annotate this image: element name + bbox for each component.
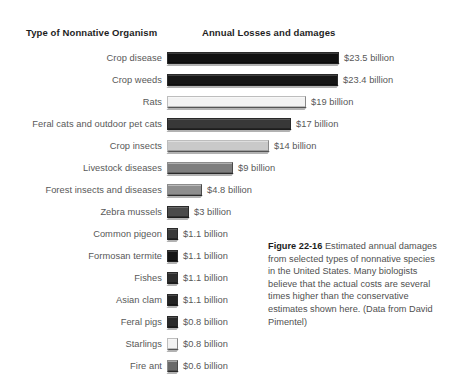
bar-chart-row: Forest insects and diseases$4.8 billion — [0, 182, 451, 204]
category-label: Starlings — [125, 339, 162, 349]
value-label: $0.8 billion — [183, 317, 228, 327]
category-column-header: Type of Nonnative Organism — [26, 27, 157, 38]
bar — [167, 96, 306, 108]
bar-chart-row: Feral cats and outdoor pet cats$17 billi… — [0, 116, 451, 138]
value-label: $14 billion — [274, 141, 316, 151]
bar-chart-row: Crop weeds$23.4 billion — [0, 72, 451, 94]
bar — [167, 52, 339, 64]
bar-chart-row: Fire ant$0.6 billion — [0, 358, 451, 378]
value-label: $19 billion — [311, 97, 353, 107]
bar-chart-row: Starlings$0.8 billion — [0, 336, 451, 358]
bar — [167, 140, 269, 152]
bar-chart-row: Rats$19 billion — [0, 94, 451, 116]
bar — [167, 184, 202, 196]
bar — [167, 162, 233, 174]
bar-chart-row: Livestock diseases$9 billion — [0, 160, 451, 182]
value-label: $9 billion — [238, 163, 275, 173]
bar — [167, 360, 178, 372]
category-label: Feral pigs — [121, 317, 162, 327]
value-label: $0.6 billion — [183, 361, 228, 371]
bar — [167, 294, 178, 306]
category-label: Fire ant — [130, 361, 162, 371]
category-label: Zebra mussels — [100, 207, 162, 217]
bar — [167, 118, 291, 130]
value-label: $1.1 billion — [183, 251, 228, 261]
category-label: Crop insects — [110, 141, 162, 151]
bar — [167, 272, 178, 284]
bar-chart-row: Zebra mussels$3 billion — [0, 204, 451, 226]
category-label: Crop weeds — [112, 75, 162, 85]
bar — [167, 250, 178, 262]
value-label: $4.8 billion — [207, 185, 252, 195]
bar — [167, 206, 189, 218]
category-label: Forest insects and diseases — [45, 185, 162, 195]
bar-chart-row: Crop insects$14 billion — [0, 138, 451, 160]
bar — [167, 338, 178, 350]
figure-caption: Figure 22-16 Estimated annual damages fr… — [268, 240, 440, 328]
bar — [167, 74, 338, 86]
value-label: $23.4 billion — [343, 75, 393, 85]
value-label: $1.1 billion — [183, 273, 228, 283]
category-label: Formosan termite — [88, 251, 162, 261]
category-label: Fishes — [134, 273, 162, 283]
value-label: $0.8 billion — [183, 339, 228, 349]
value-label: $23.5 billion — [344, 53, 394, 63]
value-label: $1.1 billion — [183, 295, 228, 305]
figure-caption-text: Estimated annual damages from selected t… — [268, 241, 437, 327]
bar — [167, 316, 178, 328]
bar-chart-row: Crop disease$23.5 billion — [0, 50, 451, 72]
value-label: $1.1 billion — [183, 229, 228, 239]
value-column-header: Annual Losses and damages — [202, 27, 335, 38]
category-label: Asian clam — [116, 295, 162, 305]
value-label: $3 billion — [194, 207, 231, 217]
category-label: Feral cats and outdoor pet cats — [32, 119, 162, 129]
figure-number: Figure 22-16 — [268, 241, 322, 251]
bar — [167, 228, 178, 240]
value-label: $17 billion — [296, 119, 338, 129]
bar-chart-rows: Crop disease$23.5 billionCrop weeds$23.4… — [0, 50, 451, 378]
category-label: Common pigeon — [93, 229, 162, 239]
category-label: Crop disease — [107, 53, 162, 63]
category-label: Livestock diseases — [83, 163, 162, 173]
category-label: Rats — [143, 97, 162, 107]
